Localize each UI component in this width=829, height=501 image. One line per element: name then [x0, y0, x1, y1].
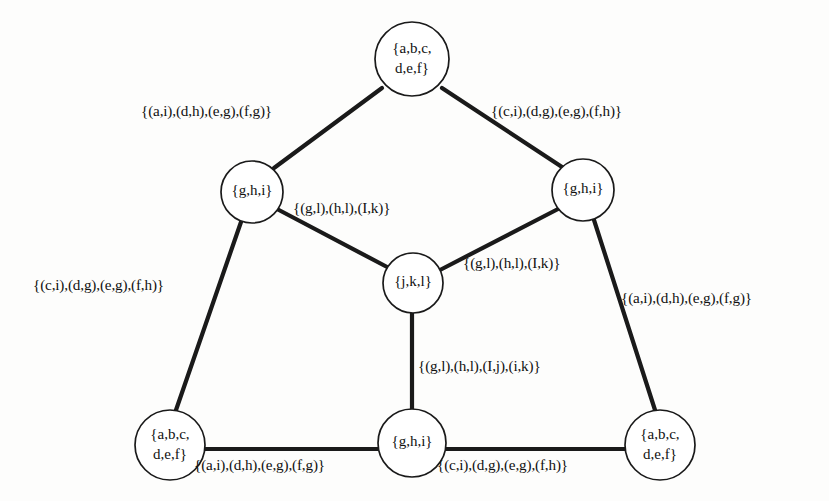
node-label-bottom-center: {g,h,i}	[391, 433, 432, 449]
node-mid-right[interactable]: {g,h,i}	[552, 159, 614, 221]
node-center[interactable]: {j,k,l}	[383, 253, 443, 313]
node-label-mid-right: {g,h,i}	[562, 180, 603, 196]
node-mid-left[interactable]: {g,h,i}	[221, 161, 283, 223]
node-label-bottom-right: {a,b,c,	[640, 426, 679, 442]
node-label-mid-left: {g,h,i}	[231, 182, 272, 198]
nodes-group: {a,b,c,d,e,f}{g,h,i}{g,h,i}{j,k,l}{a,b,c…	[135, 22, 695, 480]
node-label-line2-bottom-left: d,e,f}	[153, 446, 187, 462]
label-mid-right: {(g,l),(h,l),(I,k)}	[463, 255, 560, 270]
label-center-vertical: {(g,l),(h,l),(I,j),(i,k)}	[418, 358, 541, 373]
node-top[interactable]: {a,b,c,d,e,f}	[375, 22, 449, 96]
edge-top-to-mid-left	[274, 88, 382, 168]
node-bottom-center[interactable]: {g,h,i}	[378, 409, 446, 477]
node-circle-bottom-right	[625, 410, 695, 480]
label-mid-left: {(g,l),(h,l),(I,k)}	[293, 200, 390, 215]
graph-canvas: {a,b,c,d,e,f}{g,h,i}{g,h,i}{j,k,l}{a,b,c…	[0, 0, 829, 501]
edge-mid-left-to-bottom-left	[176, 222, 241, 410]
edge-top-to-mid-right	[442, 88, 562, 167]
label-right-side: {(a,i),(d,h),(e,g),(f,g)}	[621, 290, 752, 305]
label-bottom-left: {(a,i),(d,h),(e,g),(f,g)}	[194, 457, 325, 472]
node-label-line2-top: d,e,f}	[395, 60, 429, 76]
label-left-side: {(c,i),(d,g),(e,g),(f,h)}	[33, 277, 164, 292]
node-label-center: {j,k,l}	[394, 273, 432, 289]
node-label-bottom-left: {a,b,c,	[150, 426, 189, 442]
node-label-top: {a,b,c,	[392, 40, 431, 56]
edge-mid-right-to-bottom-right	[594, 220, 655, 410]
label-top-right: {(c,i),(d,g),(e,g),(f,h)}	[491, 103, 622, 118]
label-top-left: {(a,i),(d,h),(e,g),(f,g)}	[141, 103, 272, 118]
edge-mid-left-to-center	[277, 209, 389, 268]
node-circle-top	[375, 22, 449, 96]
node-bottom-right[interactable]: {a,b,c,d,e,f}	[625, 410, 695, 480]
node-label-line2-bottom-right: d,e,f}	[643, 446, 677, 462]
graph-diagram: {a,b,c,d,e,f}{g,h,i}{g,h,i}{j,k,l}{a,b,c…	[0, 0, 829, 501]
label-bottom-right: {(c,i),(d,g),(e,g),(f,h)}	[437, 457, 568, 472]
